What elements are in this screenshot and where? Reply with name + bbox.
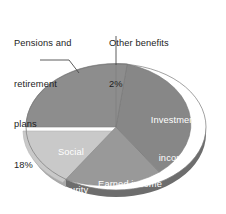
pie-chart: Pensions and retirement plans 18% Other … [0, 0, 226, 214]
slice-label-pensions-line2: retirement [14, 78, 110, 92]
slice-label-pensions-line1: Pensions and [14, 37, 110, 51]
slice-label-investment-income-line1: Investment [136, 114, 212, 127]
slice-label-other-benefits-line1: Other benefits [109, 37, 201, 51]
slice-label-social-security-line1: Social [39, 146, 103, 159]
slice-label-social-security-line2: Security [39, 184, 103, 197]
slice-label-social-security: Social Security 20% [39, 121, 103, 214]
